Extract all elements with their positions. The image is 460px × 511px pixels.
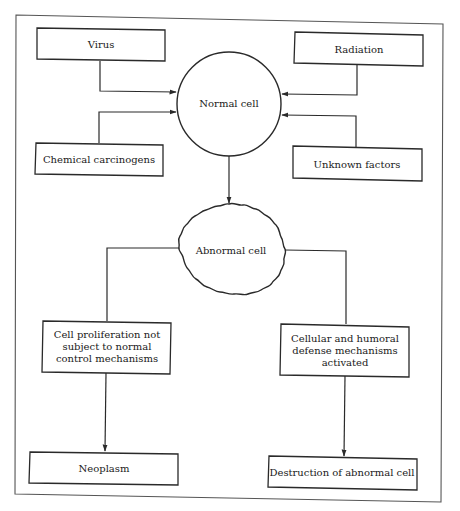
edge-radiation-to-normal-cell [282,65,357,95]
edge-defense-to-destruction [344,376,345,456]
chemical-carcinogens-label: Chemical carcinogens [43,154,155,165]
neoplasm-label: Neoplasm [79,463,130,474]
edge-abnormal-to-proliferation [107,248,179,321]
radiation-label: Radiation [335,44,385,55]
node-virus: Virus [37,28,165,61]
node-abnormal-cell: Abnormal cell [179,203,286,294]
carcinogenesis-flow-diagram: Virus Radiation Chemical carcinogens Unk… [0,0,460,511]
node-defense-mechanisms: Cellular and humoral defense mechanisms … [280,324,409,377]
cell-proliferation-line-1: Cell proliferation not [54,329,160,340]
virus-label: Virus [87,39,115,50]
unknown-factors-label: Unknown factors [314,159,401,170]
abnormal-cell-label: Abnormal cell [195,245,267,256]
cell-proliferation-line-3: control mechanisms [56,353,158,364]
destruction-label: Destruction of abnormal cell [269,467,414,478]
node-normal-cell: Normal cell [177,52,281,156]
node-cell-proliferation: Cell proliferation not subject to normal… [42,321,171,374]
node-neoplasm: Neoplasm [29,452,178,485]
normal-cell-label: Normal cell [199,98,258,109]
edge-virus-to-normal-cell [100,61,176,92]
defense-mechanisms-line-2: defense mechanisms [292,345,397,356]
node-radiation: Radiation [294,32,423,66]
node-chemical-carcinogens: Chemical carcinogens [35,143,163,176]
node-unknown-factors: Unknown factors [293,146,422,181]
edge-abnormal-to-defense [285,250,346,324]
defense-mechanisms-line-3: activated [322,357,369,368]
cell-proliferation-line-2: subject to normal [63,341,152,352]
edge-proliferation-to-neoplasm [105,373,106,451]
edge-unknown-to-normal-cell [282,115,356,147]
edge-chemical-to-normal-cell [99,112,176,143]
node-destruction-of-abnormal-cell: Destruction of abnormal cell [268,456,417,490]
defense-mechanisms-line-1: Cellular and humoral [291,333,399,344]
